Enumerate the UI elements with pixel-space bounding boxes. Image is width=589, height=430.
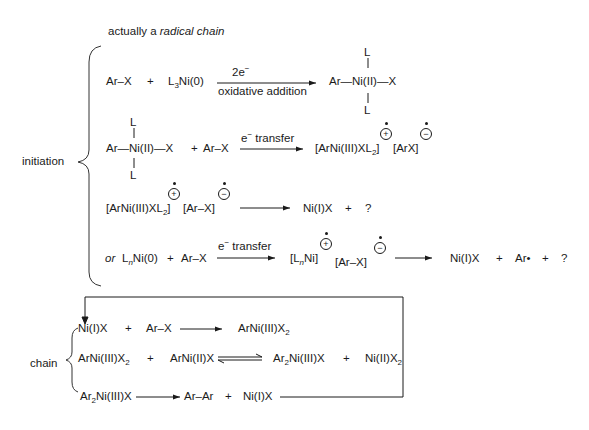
i1-product: Ar—Ni(II)—X bbox=[329, 76, 396, 88]
text: Ni(0) bbox=[179, 75, 204, 87]
c2-plus: + bbox=[147, 353, 154, 365]
c1-product: ArNi(III)X2 bbox=[238, 323, 290, 335]
text: Ni(0) bbox=[133, 252, 158, 264]
i4-arrow-above: e− transfer bbox=[218, 241, 271, 253]
radical-anion-icon: − bbox=[218, 182, 230, 202]
text: [ArNi(III)XL bbox=[315, 142, 372, 154]
chain-equilibrium-arrow-back bbox=[218, 360, 262, 363]
c2-product2: Ni(II)X2 bbox=[365, 353, 402, 365]
i3-product2: ? bbox=[365, 203, 371, 215]
i3-plus: + bbox=[345, 203, 352, 215]
i2-plus: + bbox=[191, 143, 198, 155]
i2-arrow-above: e− transfer bbox=[241, 133, 294, 145]
i2-reactant2: Ar–X bbox=[203, 143, 229, 155]
text: 2e bbox=[232, 66, 245, 78]
radical-cation-icon: + bbox=[380, 122, 392, 142]
c3-product1: Ar–Ar bbox=[184, 391, 213, 403]
text: [ArNi(III)XL bbox=[106, 202, 163, 214]
i4-reactant1: LnNi(0) bbox=[122, 253, 158, 265]
text: Ni] bbox=[304, 252, 318, 264]
c3-reactant: Ar2Ni(III)X bbox=[80, 391, 132, 403]
chain-brace bbox=[66, 328, 78, 392]
i4-intermediate1: [LnNi] bbox=[290, 253, 318, 265]
c1-reactant1: Ni(I)X bbox=[78, 323, 107, 335]
diagram-lines bbox=[0, 0, 589, 430]
text: [L bbox=[290, 252, 300, 264]
radical-anion-icon: − bbox=[420, 122, 432, 142]
text: transfer bbox=[229, 240, 271, 252]
text: or bbox=[105, 252, 115, 264]
c2-reactant2: ArNi(II)X bbox=[170, 353, 214, 365]
radical-cation-icon: + bbox=[168, 182, 180, 202]
radical-anion-icon: − bbox=[374, 236, 386, 256]
c3-plus: + bbox=[225, 391, 232, 403]
superscript: − bbox=[245, 64, 250, 73]
i1-reactant2: L3Ni(0) bbox=[168, 76, 204, 88]
text: Ni(II)X bbox=[365, 352, 398, 364]
text: Ni(III)X bbox=[96, 390, 132, 402]
c2-plus2: + bbox=[343, 353, 350, 365]
c1-reactant2: Ar–X bbox=[146, 323, 172, 335]
charge: + bbox=[380, 128, 392, 140]
i2-ligand-bottom: L bbox=[130, 170, 136, 182]
text: Ni(III)X bbox=[289, 352, 325, 364]
i1-ligand-top: L bbox=[364, 47, 370, 59]
i1-reactant1: Ar–X bbox=[106, 76, 132, 88]
subscript: 2 bbox=[125, 358, 129, 367]
text: ] bbox=[167, 202, 170, 214]
c2-product1: Ar2Ni(III)X bbox=[273, 353, 325, 365]
subscript: 2 bbox=[285, 328, 289, 337]
chain-recycle-loop bbox=[85, 297, 403, 397]
charge: − bbox=[420, 128, 432, 140]
i4-reactant2: Ar–X bbox=[181, 253, 207, 265]
chain-equilibrium-arrow-forward bbox=[218, 354, 262, 357]
radical-cation-icon: + bbox=[320, 232, 332, 252]
subscript: 2 bbox=[398, 358, 402, 367]
i4-product3: ? bbox=[561, 253, 567, 265]
i2-product1: [ArNi(III)XL2] bbox=[315, 143, 380, 155]
i3-product1: Ni(I)X bbox=[303, 203, 332, 215]
i3-reactant1: [ArNi(III)XL2] bbox=[106, 203, 171, 215]
i2-product2: [ArX] bbox=[393, 143, 419, 155]
charge: + bbox=[168, 188, 180, 200]
i4-prefix: or bbox=[105, 253, 115, 265]
i1-ligand-bottom: L bbox=[364, 105, 370, 117]
i3-reactant2: [Ar–X] bbox=[183, 203, 215, 215]
text: Ar bbox=[273, 352, 285, 364]
initiation-brace bbox=[78, 46, 101, 286]
i4-product1: Ni(I)X bbox=[450, 253, 479, 265]
c2-reactant1: ArNi(III)X2 bbox=[78, 353, 130, 365]
i4-plus: + bbox=[167, 253, 174, 265]
i1-arrow-above: 2e− bbox=[232, 67, 249, 79]
c1-plus: + bbox=[125, 323, 132, 335]
text: transfer bbox=[252, 132, 294, 144]
charge: − bbox=[218, 188, 230, 200]
text: ArNi(III)X bbox=[78, 352, 125, 364]
i4-plus3: + bbox=[542, 253, 549, 265]
i4-product2: Ar• bbox=[515, 253, 531, 265]
text: ArNi(III)X bbox=[238, 322, 285, 334]
i1-plus: + bbox=[147, 76, 154, 88]
charge: + bbox=[320, 238, 332, 250]
i2-ligand-top: L bbox=[130, 117, 136, 129]
i4-intermediate2: [Ar–X] bbox=[335, 257, 367, 269]
i1-arrow-below: oxidative addition bbox=[218, 86, 307, 98]
text: Ar bbox=[80, 390, 92, 402]
c3-product2: Ni(I)X bbox=[243, 391, 272, 403]
text: ] bbox=[376, 142, 379, 154]
i4-plus2: + bbox=[496, 253, 503, 265]
charge: − bbox=[374, 242, 386, 254]
i2-reactant1: Ar—Ni(II)—X bbox=[106, 143, 173, 155]
